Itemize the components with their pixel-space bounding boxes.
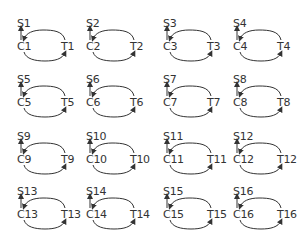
- source-label: S5: [17, 74, 30, 85]
- controller-label: C12: [233, 154, 254, 165]
- source-label: S7: [163, 74, 176, 85]
- target-label: T7: [207, 97, 220, 108]
- target-label: T2: [130, 41, 143, 52]
- target-label: T3: [207, 41, 220, 52]
- controller-label: C1: [17, 41, 31, 52]
- unit-cell-8: S8 C8 T8: [233, 74, 299, 120]
- source-label: S16: [233, 186, 253, 197]
- source-label: S6: [86, 74, 99, 85]
- target-label: T14: [130, 209, 150, 220]
- unit-cell-3: S3 C3 T3: [163, 18, 229, 64]
- target-label: T5: [61, 97, 74, 108]
- unit-cell-12: S12 C12 T12: [233, 131, 299, 177]
- target-label: T8: [277, 97, 290, 108]
- source-label: S13: [17, 186, 37, 197]
- target-label: T13: [61, 209, 81, 220]
- target-label: T6: [130, 97, 143, 108]
- controller-label: C11: [163, 154, 184, 165]
- unit-cell-14: S14 C14 T14: [86, 186, 152, 232]
- unit-cell-2: S2 C2 T2: [86, 18, 152, 64]
- source-label: S12: [233, 131, 253, 142]
- unit-cell-10: S10 C10 T10: [86, 131, 152, 177]
- target-label: T15: [207, 209, 227, 220]
- target-label: T12: [277, 154, 297, 165]
- controller-label: C14: [86, 209, 107, 220]
- source-label: S10: [86, 131, 106, 142]
- controller-label: C5: [17, 97, 31, 108]
- source-label: S4: [233, 18, 246, 29]
- controller-label: C13: [17, 209, 38, 220]
- controller-label: C10: [86, 154, 107, 165]
- controller-label: C3: [163, 41, 177, 52]
- source-label: S14: [86, 186, 106, 197]
- unit-cell-1: S1 C1 T1: [17, 18, 83, 64]
- controller-label: C2: [86, 41, 100, 52]
- target-label: T1: [61, 41, 74, 52]
- controller-label: C7: [163, 97, 177, 108]
- source-label: S9: [17, 131, 30, 142]
- source-label: S8: [233, 74, 246, 85]
- source-label: S1: [17, 18, 30, 29]
- unit-cell-6: S6 C6 T6: [86, 74, 152, 120]
- target-label: T4: [277, 41, 290, 52]
- source-label: S15: [163, 186, 183, 197]
- unit-cell-4: S4 C4 T4: [233, 18, 299, 64]
- source-label: S11: [163, 131, 183, 142]
- controller-label: C6: [86, 97, 100, 108]
- controller-label: C16: [233, 209, 254, 220]
- source-label: S2: [86, 18, 99, 29]
- unit-cell-7: S7 C7 T7: [163, 74, 229, 120]
- target-label: T11: [207, 154, 227, 165]
- unit-cell-5: S5 C5 T5: [17, 74, 83, 120]
- target-label: T10: [130, 154, 150, 165]
- unit-cell-11: S11 C11 T11: [163, 131, 229, 177]
- unit-cell-9: S9 C9 T9: [17, 131, 83, 177]
- target-label: T9: [61, 154, 74, 165]
- source-label: S3: [163, 18, 176, 29]
- controller-label: C15: [163, 209, 184, 220]
- unit-cell-13: S13 C13 T13: [17, 186, 83, 232]
- unit-cell-15: S15 C15 T15: [163, 186, 229, 232]
- controller-label: C4: [233, 41, 247, 52]
- unit-cell-16: S16 C16 T16: [233, 186, 299, 232]
- target-label: T16: [277, 209, 297, 220]
- controller-label: C8: [233, 97, 247, 108]
- controller-label: C9: [17, 154, 31, 165]
